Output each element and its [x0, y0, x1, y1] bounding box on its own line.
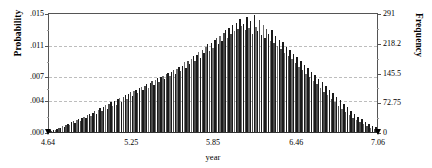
- y-axis-right-tick-label: 0: [383, 128, 387, 137]
- x-axis-range-marker: [375, 129, 381, 135]
- y-axis-left-tick-label: .015: [30, 9, 44, 18]
- x-axis-tick-label: 4.64: [28, 138, 68, 147]
- y-axis-right-minor-tick: [377, 29, 379, 30]
- y-axis-left-tick-label: .011: [30, 41, 44, 50]
- x-axis-tick-label: 5.85: [193, 138, 233, 147]
- x-axis-tick-label: 7.06: [358, 138, 398, 147]
- plot-area: .015.011.007.004.000 291218.2145.572.750: [48, 13, 378, 132]
- y-axis-right-tick: [377, 103, 381, 104]
- y-axis-right-tick-label: 72.75: [383, 98, 401, 107]
- y-axis-right-tick-label: 218.2: [383, 39, 401, 48]
- x-axis-title: year: [168, 152, 258, 162]
- y-axis-right-tick: [377, 44, 381, 45]
- y-axis-right-tick: [377, 14, 381, 15]
- y-axis-left-tick-label: .000: [30, 128, 44, 137]
- y-axis-left-title: Probability: [13, 0, 23, 76]
- y-axis-right-minor-tick: [377, 118, 379, 119]
- y-axis-left-tick-label: .007: [30, 72, 44, 81]
- histogram-chart: Probability Frequency year .015.011.007.…: [0, 0, 432, 168]
- y-axis-right-tick-label: 291: [383, 9, 395, 18]
- y-axis-right-minor-tick: [377, 59, 379, 60]
- y-axis-right-title: Frequency: [414, 0, 424, 78]
- y-axis-left-tick-label: .004: [30, 96, 44, 105]
- x-axis-tick-label: 6.46: [276, 138, 316, 147]
- histogram-bars: [49, 14, 377, 132]
- x-axis-range-marker: [45, 129, 51, 135]
- x-axis-line: [48, 132, 379, 133]
- x-axis-tick-label: 5.25: [111, 138, 151, 147]
- y-axis-right-tick-label: 145.5: [383, 69, 401, 78]
- y-axis-right-tick: [377, 74, 381, 75]
- y-axis-right-minor-tick: [377, 88, 379, 89]
